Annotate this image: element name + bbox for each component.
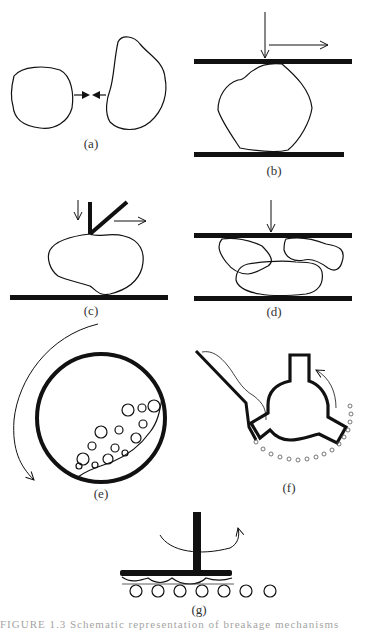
- panel-g: [120, 512, 276, 597]
- panel-b: [194, 12, 352, 157]
- particle: [218, 64, 312, 152]
- material-layer: [122, 577, 232, 584]
- label-b: (b): [266, 163, 281, 179]
- label-f: (f): [283, 480, 296, 496]
- label-d: (d): [266, 304, 281, 320]
- label-e: (e): [94, 486, 108, 502]
- panel-f: [196, 351, 353, 462]
- blade-diagonal: [90, 202, 127, 234]
- particle-right: [284, 238, 343, 270]
- top-plate: [194, 233, 352, 238]
- panel-a: [11, 37, 165, 130]
- label-c: (c): [84, 303, 98, 319]
- base-plate: [10, 295, 168, 300]
- rotor: [251, 355, 346, 443]
- feed-material: [202, 352, 266, 420]
- bottom-plate: [194, 296, 352, 301]
- particle-bottom: [236, 261, 322, 295]
- spheres: [130, 585, 276, 597]
- feed-chute: [196, 351, 256, 440]
- drum: [37, 354, 165, 482]
- label-g: (g): [191, 602, 206, 618]
- shaft: [193, 512, 201, 572]
- particle: [48, 234, 143, 295]
- bottom-plate: [194, 152, 344, 157]
- label-a: (a): [84, 136, 98, 152]
- panel-e: [14, 324, 165, 482]
- particle-left: [219, 238, 271, 274]
- disc: [120, 570, 232, 576]
- figure: (a) (b) (c) (d) (e) (f) (g) FIGURE 1.3 S…: [0, 0, 367, 630]
- panel-d: [194, 200, 352, 301]
- panel-c: [10, 200, 168, 300]
- particle-left: [11, 67, 72, 128]
- rotation-arrow: [14, 324, 98, 480]
- figure-caption: FIGURE 1.3 Schematic representation of b…: [0, 618, 367, 630]
- figure-svg: [0, 0, 367, 630]
- particle-right: [107, 37, 166, 130]
